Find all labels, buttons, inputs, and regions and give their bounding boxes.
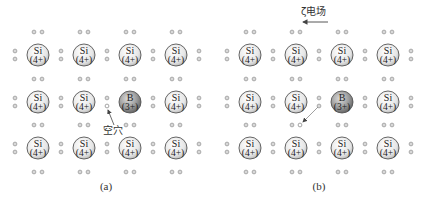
electron-icon [336, 77, 340, 81]
electron-icon [124, 30, 128, 34]
panel-a: Si(4+)Si(4+)Si(4+)Si(4+)Si(4+)Si(4+)B(3+… [13, 30, 201, 193]
electron-icon [363, 150, 367, 154]
silicon-atom: Si(4+) [165, 91, 187, 113]
electron-icon [32, 30, 36, 34]
silicon-atom: Si(4+) [119, 44, 141, 66]
electron-icon [105, 57, 109, 61]
electron-icon [86, 77, 90, 81]
electron-icon [151, 49, 155, 53]
electron-icon [178, 30, 182, 34]
silicon-atom: Si(4+) [285, 137, 307, 159]
electron-icon [40, 123, 44, 127]
electron-icon [59, 142, 63, 146]
electron-icon [59, 150, 63, 154]
electron-icon [244, 30, 248, 34]
silicon-atom: Si(4+) [27, 137, 49, 159]
electron-icon [105, 49, 109, 53]
atom-charge: (4+) [288, 148, 304, 159]
panel-caption: (b) [313, 180, 326, 193]
electron-icon [382, 123, 386, 127]
atom-charge: (4+) [30, 102, 46, 113]
silicon-atom: Si(4+) [73, 44, 95, 66]
electron-icon [197, 57, 201, 61]
silicon-atom: Si(4+) [119, 137, 141, 159]
atom-charge: (4+) [168, 102, 184, 113]
electron-icon [170, 77, 174, 81]
electron-icon [197, 150, 201, 154]
electron-icon [336, 170, 340, 174]
electron-icon [225, 49, 229, 53]
electron-icon [363, 104, 367, 108]
electron-icon [151, 142, 155, 146]
electron-icon [13, 142, 17, 146]
electron-icon [105, 96, 109, 100]
electron-icon [13, 96, 17, 100]
electron-icon [409, 96, 413, 100]
electron-icon [59, 96, 63, 100]
electron-icon [298, 30, 302, 34]
electron-icon [124, 123, 128, 127]
electron-icon [13, 57, 17, 61]
electron-icon [225, 57, 229, 61]
electron-icon [225, 104, 229, 108]
electron-icon [151, 104, 155, 108]
electron-icon [86, 123, 90, 127]
electron-icon [290, 123, 294, 127]
electron-icon [382, 77, 386, 81]
electric-field-label: ζ电场 [301, 5, 326, 17]
electron-icon [132, 123, 136, 127]
electron-icon [197, 49, 201, 53]
silicon-atom: Si(4+) [165, 137, 187, 159]
electron-icon [40, 30, 44, 34]
electron-icon [225, 96, 229, 100]
electron-icon [344, 170, 348, 174]
silicon-atom: Si(4+) [73, 137, 95, 159]
silicon-atom: Si(4+) [331, 44, 353, 66]
electron-icon [32, 123, 36, 127]
electron-icon [124, 77, 128, 81]
electron-icon [252, 30, 256, 34]
electron-icon [86, 30, 90, 34]
electron-icon [382, 170, 386, 174]
silicon-atom: Si(4+) [27, 44, 49, 66]
electron-icon [178, 123, 182, 127]
electron-icon [197, 142, 201, 146]
electron-icon [78, 123, 82, 127]
electron-icon [409, 142, 413, 146]
silicon-atom: Si(4+) [377, 91, 399, 113]
electron-icon [225, 142, 229, 146]
electron-icon [317, 150, 321, 154]
electron-icon [40, 170, 44, 174]
silicon-atom: Si(4+) [27, 91, 49, 113]
boron-atom: B(3+) [331, 91, 353, 113]
electron-icon [363, 57, 367, 61]
panel-b: Si(4+)Si(4+)Si(4+)Si(4+)Si(4+)Si(4+)B(3+… [225, 5, 413, 193]
electron-icon [252, 170, 256, 174]
electron-icon [178, 170, 182, 174]
electron-icon [336, 123, 340, 127]
atom-charge: (4+) [380, 55, 396, 66]
silicon-atom: Si(4+) [239, 91, 261, 113]
electron-icon [317, 96, 321, 100]
atom-charge: (4+) [76, 148, 92, 159]
atom-charge: (4+) [122, 148, 138, 159]
electron-icon [170, 170, 174, 174]
electron-move-arrow [303, 107, 318, 122]
electron-icon [78, 170, 82, 174]
atom-charge: (4+) [288, 55, 304, 66]
semiconductor-lattice-diagram: Si(4+)Si(4+)Si(4+)Si(4+)Si(4+)Si(4+)B(3+… [0, 0, 426, 200]
electron-icon [170, 30, 174, 34]
electron-icon [409, 150, 413, 154]
electron-icon [271, 104, 275, 108]
electron-icon [13, 150, 17, 154]
electron-icon [271, 96, 275, 100]
silicon-atom: Si(4+) [73, 91, 95, 113]
electron-icon [86, 170, 90, 174]
electron-icon [132, 30, 136, 34]
electron-icon [317, 49, 321, 53]
electron-icon [344, 30, 348, 34]
electron-icon [244, 170, 248, 174]
electron-icon [363, 49, 367, 53]
electron-icon [271, 57, 275, 61]
electron-icon [244, 123, 248, 127]
